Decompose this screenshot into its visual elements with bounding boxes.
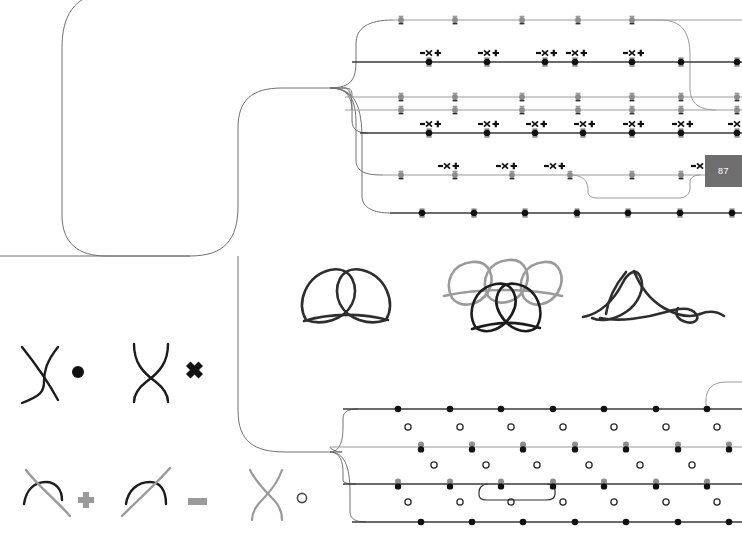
track-marker [398, 171, 404, 180]
track-marker [734, 128, 741, 137]
track-marker [678, 57, 685, 66]
open-circle-marker [457, 424, 463, 430]
track-marker [653, 406, 660, 413]
crossing-glyph-cluster [420, 121, 441, 127]
track-marker [484, 128, 491, 137]
track-marker [426, 57, 433, 66]
track-bottom-3 [343, 478, 742, 489]
track-marker [469, 519, 476, 526]
open-circle-marker [405, 424, 411, 430]
legend-dot-symbol [72, 366, 84, 378]
open-circle-marker [586, 462, 592, 468]
track-marker [678, 93, 684, 102]
legend-plus-symbol [78, 492, 94, 508]
open-circles-row-1 [405, 424, 720, 430]
diagram-svg [0, 0, 742, 551]
track-marker [601, 406, 608, 413]
connector-fan-bottom [330, 409, 366, 522]
open-circle-marker [560, 499, 566, 505]
tracks-layer [330, 16, 742, 526]
track-top-5 [360, 121, 742, 138]
track-bottom-4 [352, 519, 742, 526]
track-marker [572, 57, 579, 66]
track-marker [498, 406, 505, 413]
legend-minus-symbol [188, 498, 207, 505]
track-marker [580, 128, 587, 137]
track-marker [419, 208, 426, 217]
track-marker [572, 519, 579, 526]
track-bottom-1 [343, 406, 742, 413]
track-marker [575, 16, 581, 25]
crossing-glyph-cluster [478, 50, 499, 56]
track-marker [575, 106, 581, 115]
track-marker [484, 57, 491, 66]
crossing-glyph-cluster [438, 163, 459, 169]
track-marker [729, 208, 736, 217]
open-circle-marker [457, 499, 463, 505]
track-marker [522, 208, 529, 217]
track-marker [532, 128, 539, 137]
open-circle-marker [431, 462, 437, 468]
track-marker [574, 208, 581, 217]
track-top-4 [345, 106, 742, 115]
track-marker [452, 171, 458, 180]
open-circles-layer [405, 424, 720, 505]
track-marker [629, 57, 636, 66]
connector-frame-lower [238, 256, 330, 452]
track-marker [625, 208, 632, 217]
track-marker [678, 106, 684, 115]
track-top-3 [345, 93, 742, 102]
track-marker [471, 208, 478, 217]
open-circle-marker [483, 462, 489, 468]
crossing-glyph-cluster [623, 121, 644, 127]
legend-open-circle-symbol [297, 493, 306, 502]
crossing-glyph-cluster [496, 163, 517, 169]
track-marker [629, 171, 635, 180]
track-marker [677, 208, 684, 217]
open-circle-marker [637, 462, 643, 468]
track-marker [452, 106, 458, 115]
crossing-glyph-cluster [672, 121, 693, 127]
crossing-glyph-cluster [526, 121, 547, 127]
connector-frame-upper [0, 0, 330, 256]
connector-fan-top [330, 20, 393, 213]
knot-two-loop [302, 269, 390, 322]
track-marker [519, 106, 525, 115]
track-marker [567, 171, 573, 180]
open-circle-marker [534, 462, 540, 468]
track-marker [398, 16, 404, 25]
track-marker [519, 93, 525, 102]
track-marker [575, 93, 581, 102]
crossing-glyph-cluster [728, 121, 742, 127]
legend-crossing-open [250, 470, 282, 520]
track-marker [704, 406, 711, 413]
track-marker [395, 406, 402, 413]
open-circles-row-2 [431, 462, 695, 468]
open-circle-marker [689, 462, 695, 468]
legend-row-1 [22, 344, 203, 403]
track-marker [678, 171, 684, 180]
track-marker [520, 519, 527, 526]
legend-crossing-plus [24, 470, 70, 516]
open-circle-marker [508, 424, 514, 430]
open-circle-marker [611, 424, 617, 430]
track-marker [398, 106, 404, 115]
track-marker [452, 93, 458, 102]
knot-stacked-five [444, 260, 562, 331]
track-bottom-2 [330, 441, 742, 452]
open-circle-marker [663, 499, 669, 505]
track-marker [623, 519, 630, 526]
crossover-descend-bottom [706, 382, 742, 409]
diagram-canvas: 87 [0, 0, 742, 551]
status-badge[interactable]: 87 [705, 155, 742, 187]
track-marker [734, 57, 741, 66]
crossing-glyph-cluster [478, 121, 499, 127]
legend-crossing-minus [122, 468, 170, 516]
crossing-glyph-cluster [544, 163, 565, 169]
legend-crossing-dot [22, 347, 58, 403]
legend-row-2 [24, 468, 307, 520]
track-marker [447, 406, 454, 413]
track-marker [726, 519, 733, 526]
track-marker [675, 519, 682, 526]
track-marker [418, 519, 425, 526]
